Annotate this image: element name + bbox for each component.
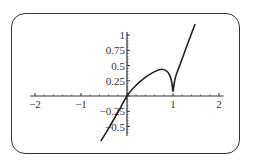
y-tick-label: 0.5 bbox=[111, 60, 125, 72]
y-tick-label: 0.75 bbox=[106, 44, 126, 56]
x-tick-label: 1 bbox=[170, 98, 176, 110]
axes bbox=[30, 32, 223, 136]
x-tick-label: −2 bbox=[29, 98, 41, 110]
y-tick-label: 0.25 bbox=[106, 75, 126, 87]
tick-labels: −2−11210.750.50.25−0.25−0.5 bbox=[29, 29, 222, 133]
x-tick-label: 2 bbox=[216, 98, 222, 110]
y-tick-label: 1 bbox=[120, 29, 126, 41]
x-tick-label: −1 bbox=[75, 98, 87, 110]
plot-area: −2−11210.750.50.25−0.25−0.5 bbox=[0, 0, 253, 162]
